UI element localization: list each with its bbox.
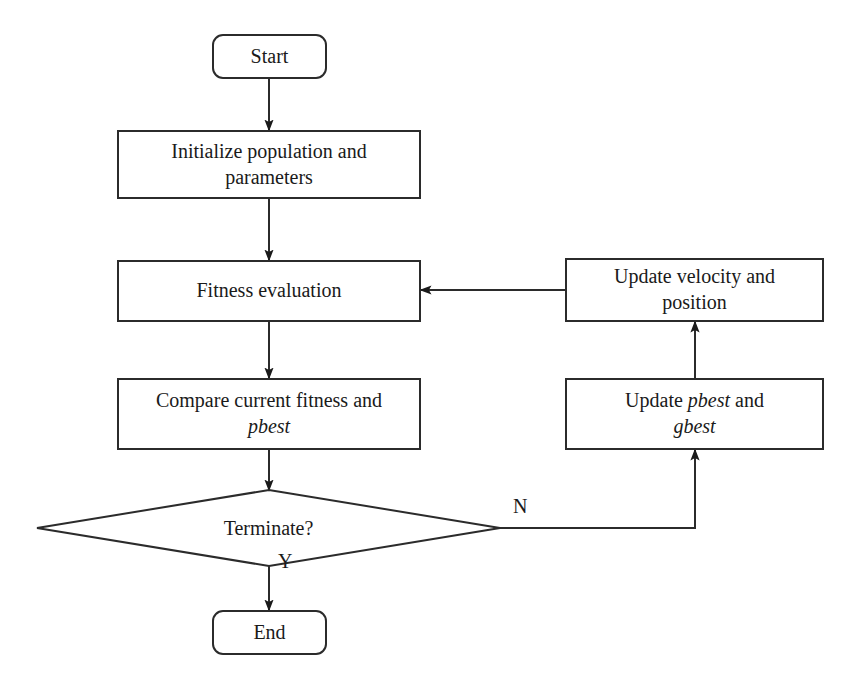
node-compare-line2-pbest: pbest xyxy=(248,415,290,437)
node-compare-current-fitness: Compare current fitness and pbest xyxy=(117,378,421,450)
node-update-best-line1-suffix: and xyxy=(730,389,764,411)
edge-terminate-no-to-update-best xyxy=(500,450,695,528)
node-fitness-evaluation: Fitness evaluation xyxy=(117,260,421,322)
node-compare-label: Compare current fitness and pbest xyxy=(148,388,390,439)
node-update-pbest-gbest: Update pbest and gbest xyxy=(565,378,824,450)
edge-label-yes: Y xyxy=(278,551,292,571)
node-update-velocity-line1: Update velocity and xyxy=(614,265,775,287)
node-start: Start xyxy=(212,34,327,79)
node-update-velocity-label: Update velocity and position xyxy=(606,264,783,315)
node-fitness-label: Fitness evaluation xyxy=(189,278,350,304)
node-update-best-gbest: gbest xyxy=(673,415,715,437)
node-end-label: End xyxy=(245,620,293,646)
node-terminate-label: Terminate? xyxy=(216,517,322,540)
node-update-best-line1-prefix: Update xyxy=(625,389,688,411)
node-start-label: Start xyxy=(243,44,297,70)
node-update-best-pbest: pbest xyxy=(688,389,730,411)
node-end: End xyxy=(212,610,327,655)
node-initialize-line2: parameters xyxy=(225,166,313,188)
edge-label-no: N xyxy=(513,496,527,516)
node-update-best-label: Update pbest and gbest xyxy=(617,388,772,439)
node-compare-line1: Compare current fitness and xyxy=(156,389,382,411)
flowchart-connectors xyxy=(0,0,856,689)
node-terminate-decision: Terminate? xyxy=(37,490,500,566)
node-initialize-population: Initialize population and parameters xyxy=(117,130,421,199)
node-update-velocity-line2: position xyxy=(662,291,726,313)
node-initialize-label: Initialize population and parameters xyxy=(163,139,375,190)
node-initialize-line1: Initialize population and xyxy=(171,140,367,162)
node-update-velocity-position: Update velocity and position xyxy=(565,258,824,322)
